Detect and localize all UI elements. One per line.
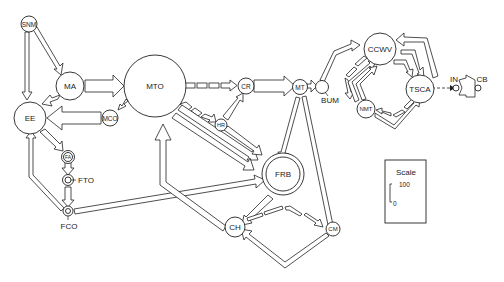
svg-text:CM: CM [328, 226, 337, 232]
svg-text:IN: IN [450, 75, 458, 84]
svg-text:BUM: BUM [321, 96, 339, 105]
edge-tsca-ccwv [396, 33, 438, 78]
svg-text:MTO: MTO [146, 82, 164, 91]
svg-text:FA: FA [65, 154, 72, 160]
svg-text:SNM: SNM [22, 21, 36, 28]
svg-text:EE: EE [25, 114, 36, 123]
node-cr[interactable]: CR [238, 78, 254, 94]
svg-text:MCO: MCO [102, 115, 117, 122]
svg-text:CH: CH [229, 223, 241, 232]
node-hr[interactable]: HR [215, 119, 227, 131]
edge-mt-cm [302, 96, 333, 227]
svg-text:NMT: NMT [360, 106, 373, 112]
node-fto[interactable]: FTO [63, 175, 94, 186]
svg-text:CB: CB [476, 75, 487, 84]
svg-text:MA: MA [64, 82, 77, 91]
edge-nmt-ccwv-b [356, 66, 377, 100]
edge-mco-ee [47, 106, 101, 130]
node-mt[interactable]: MT [293, 80, 308, 95]
edge-mto-cr [185, 80, 237, 91]
svg-text:FTO: FTO [78, 176, 94, 185]
node-bum[interactable]: BUM [316, 81, 340, 105]
edge-fto-fco [62, 187, 74, 207]
node-snm[interactable]: SNM [21, 16, 37, 32]
node-cm[interactable]: CM [326, 222, 340, 236]
node-mco[interactable]: MCO [102, 110, 118, 126]
scale-legend: Scale 100 0 [385, 160, 426, 223]
svg-text:0: 0 [393, 200, 397, 207]
svg-text:CCWV: CCWV [368, 45, 393, 54]
edge-in-cb [459, 75, 475, 97]
svg-text:MT: MT [295, 84, 304, 91]
svg-text:FCO: FCO [61, 222, 78, 231]
edge-ee-fa [40, 129, 63, 151]
svg-text:Scale: Scale [396, 168, 417, 177]
edge-ma-ee [42, 95, 60, 106]
edge-ccwv-tsca-b [394, 60, 413, 77]
node-mto[interactable]: MTO [124, 55, 186, 117]
node-ccwv[interactable]: CCWV [364, 33, 396, 65]
edge-bum-ccwv [320, 40, 360, 82]
edge-mto-mco [118, 99, 128, 110]
svg-text:TSCA: TSCA [409, 85, 431, 94]
edge-cr-mt [254, 76, 295, 96]
edge-snm-ma [32, 27, 63, 75]
flux-network-diagram: SNM MA EE MCO MTO FA FTO [0, 0, 504, 282]
edge-hr-cr [223, 93, 243, 120]
edges [22, 27, 475, 268]
node-frb[interactable]: FRB [262, 153, 304, 195]
node-ch[interactable]: CH [225, 217, 245, 237]
svg-text:100: 100 [399, 181, 410, 188]
node-cb[interactable]: CB [475, 75, 488, 92]
edge-fco-frb [74, 175, 265, 214]
node-ee[interactable]: EE [14, 102, 46, 134]
edge-frb-ch [242, 195, 273, 225]
edge-ma-mto [85, 75, 124, 97]
edge-mto-frb-a [178, 105, 258, 160]
node-ma[interactable]: MA [56, 72, 84, 100]
node-fa[interactable]: FA [62, 151, 75, 164]
svg-text:FRB: FRB [275, 170, 291, 179]
edge-mt-frb [278, 97, 300, 162]
edge-cm-ch [241, 229, 329, 268]
svg-text:CR: CR [241, 83, 251, 90]
node-tsca[interactable]: TSCA [406, 75, 434, 103]
edge-snm-ee [22, 32, 32, 100]
node-nmt[interactable]: NMT [357, 100, 375, 118]
svg-text:HR: HR [217, 122, 225, 128]
